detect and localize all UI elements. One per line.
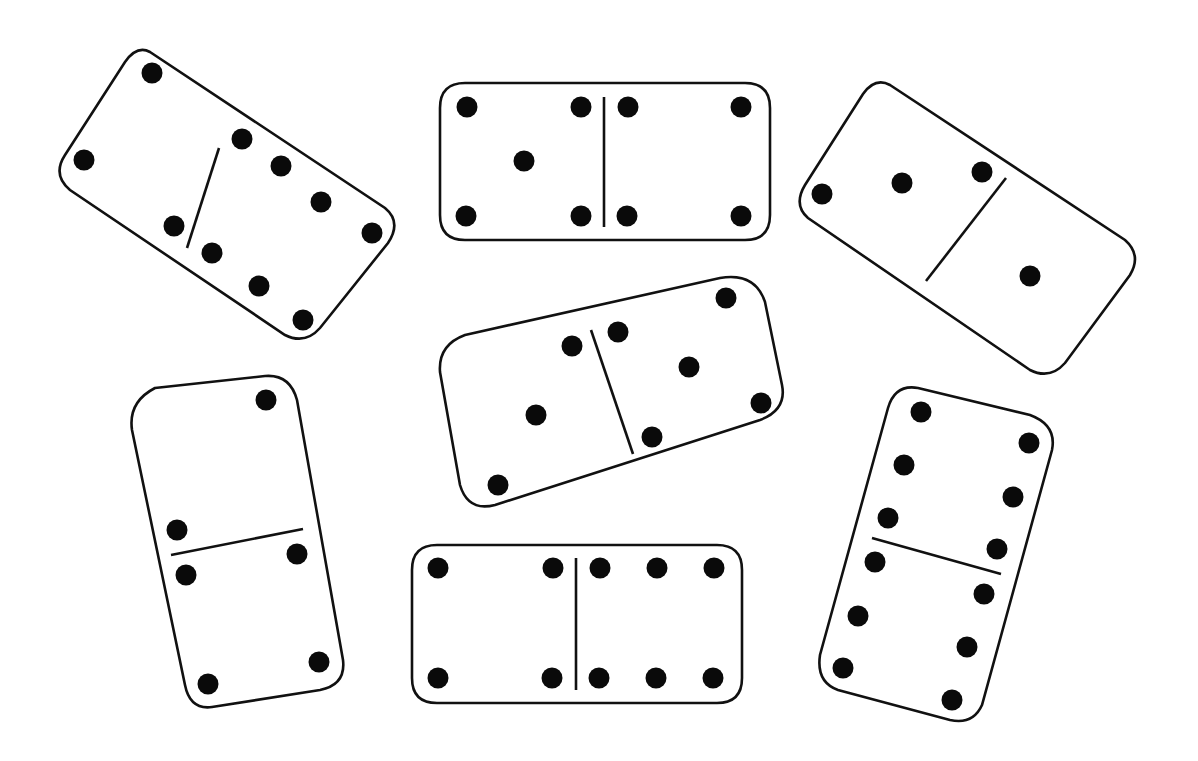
pip-dot [542,668,563,689]
pip-dot [543,558,564,579]
pip-dot [571,206,592,227]
pip-dot [562,336,583,357]
domino-top-left [60,50,395,339]
domino-bottom-left [131,376,343,707]
pip-dot [892,173,913,194]
pip-dot [271,156,292,177]
pip-dot [428,668,449,689]
pip-dot [176,565,197,586]
pip-dot [704,558,725,579]
pip-dot [488,475,509,496]
pip-dot [608,322,629,343]
pip-dot [514,151,535,172]
pip-dot [232,129,253,150]
pip-dot [894,455,915,476]
pip-dot [256,390,277,411]
pip-dot [731,206,752,227]
pip-dot [974,584,995,605]
domino-center [440,277,783,506]
pip-dot [642,427,663,448]
domino-bottom-right [819,387,1052,721]
pip-dot [716,288,737,309]
pip-dot [1020,266,1041,287]
pip-dot [293,310,314,331]
pip-dot [942,690,963,711]
pip-dot [362,223,383,244]
pip-dot [646,668,667,689]
pip-dot [957,637,978,658]
pip-dot [249,276,270,297]
pip-dot [590,558,611,579]
pip-dot [428,558,449,579]
pip-dot [731,97,752,118]
domino-bottom-center [412,545,742,703]
pip-dot [571,97,592,118]
domino-canvas [0,0,1198,761]
pip-dot [987,539,1008,560]
pip-dot [833,658,854,679]
pip-dot [1019,433,1040,454]
pip-dot [198,674,219,695]
pip-dot [142,63,163,84]
pip-dot [202,243,223,264]
domino-top-center [440,83,770,240]
pip-dot [589,668,610,689]
pip-dot [617,206,638,227]
pip-dot [647,558,668,579]
pip-dot [972,162,993,183]
pip-dot [74,150,95,171]
pip-dot [311,192,332,213]
pip-dot [309,652,330,673]
pip-dot [848,606,869,627]
pip-dot [526,405,547,426]
pip-dot [164,216,185,237]
pip-dot [812,184,833,205]
pip-dot [167,520,188,541]
domino-top-right [800,82,1135,373]
pip-dot [287,544,308,565]
pip-dot [911,402,932,423]
pip-dot [457,97,478,118]
pip-dot [878,508,899,529]
pip-dot [456,206,477,227]
domino-outline [819,387,1052,721]
pip-dot [679,357,700,378]
pip-dot [1003,487,1024,508]
pip-dot [865,552,886,573]
pip-dot [703,668,724,689]
domino-outline [60,50,395,339]
pip-dot [751,393,772,414]
pip-dot [618,97,639,118]
